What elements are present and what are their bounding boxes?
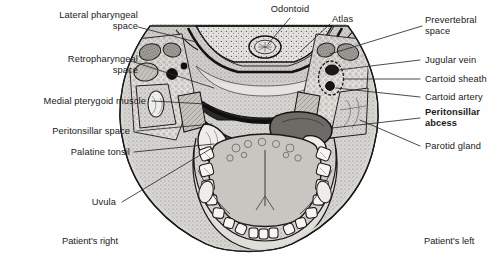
label-jugular-vein: Jugular vein — [425, 55, 497, 66]
label-cartoid-artery: Cartoid artery — [425, 92, 498, 103]
label-lateral-pharyngeal-space: Lateral pharyngeal space — [12, 10, 138, 31]
label-palatine-tonsil: Palatine tonsil — [30, 147, 130, 158]
label-medial-pterygoid-muscle: Medial pterygoid muscle — [4, 96, 146, 107]
label-parotid-gland: Parotid gland — [425, 141, 498, 152]
tongue — [209, 134, 322, 227]
label-cartoid-sheath: Cartoid sheath — [425, 74, 498, 85]
label-odontoid: Odontoid — [252, 4, 328, 15]
carotid-artery-lumen — [326, 82, 335, 91]
label-patients-left: Patient's left — [424, 236, 474, 246]
label-peritonsillar-abcess: Peritonsillar abcess — [425, 107, 497, 128]
label-patients-right: Patient's right — [62, 236, 118, 246]
label-atlas: Atlas — [332, 14, 376, 25]
label-retropharyngeal-space: Retropharyngeal space — [12, 54, 138, 75]
label-uvula: Uvula — [60, 197, 116, 208]
cross-section-body — [120, 20, 380, 260]
label-prevertebral-space: Prevertebral space — [425, 15, 497, 36]
label-peritonsillar-space: Peritonsillar space — [16, 126, 130, 137]
